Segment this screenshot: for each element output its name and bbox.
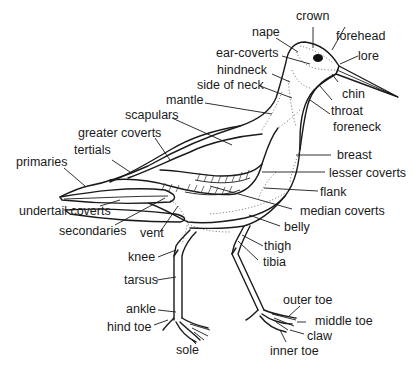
label-primaries: primaries [16, 155, 67, 169]
label-sole: sole [176, 343, 199, 357]
label-undertail-coverts: undertail coverts [19, 204, 111, 218]
label-median-coverts: median coverts [300, 204, 385, 218]
label-secondaries: secondaries [59, 224, 126, 238]
label-thigh: thigh [264, 239, 291, 253]
label-claw: claw [307, 329, 333, 343]
label-mantle: mantle [166, 93, 204, 107]
label-scapulars: scapulars [125, 108, 179, 122]
label-ear-coverts: ear-coverts [216, 46, 279, 60]
label-greater-coverts: greater coverts [78, 126, 161, 140]
label-hind-toe: hind toe [107, 320, 152, 334]
label-ankle: ankle [126, 302, 156, 316]
label-outer-toe: outer toe [283, 293, 332, 307]
label-tarsus: tarsus [124, 273, 158, 287]
label-forehead: forehead [336, 29, 385, 43]
label-side-of-neck: side of neck [197, 78, 264, 92]
label-chin: chin [342, 87, 365, 101]
label-knee: knee [128, 250, 155, 264]
label-lore: lore [358, 49, 379, 63]
bird-anatomy-diagram: crown nape forehead ear-coverts lore hin… [0, 0, 415, 366]
label-tibia: tibia [263, 255, 286, 269]
label-flank: flank [320, 185, 347, 199]
label-nape: nape [252, 25, 280, 39]
label-breast: breast [337, 148, 372, 162]
label-throat: throat [331, 104, 363, 118]
label-vent: vent [140, 226, 164, 240]
label-inner-toe: inner toe [270, 344, 319, 358]
label-crown: crown [296, 9, 329, 23]
label-tertials: tertials [74, 143, 111, 157]
label-middle-toe: middle toe [315, 314, 373, 328]
label-lesser-coverts: lesser coverts [329, 166, 406, 180]
label-hindneck: hindneck [217, 63, 268, 77]
label-belly: belly [284, 220, 310, 234]
label-foreneck: foreneck [333, 120, 382, 134]
